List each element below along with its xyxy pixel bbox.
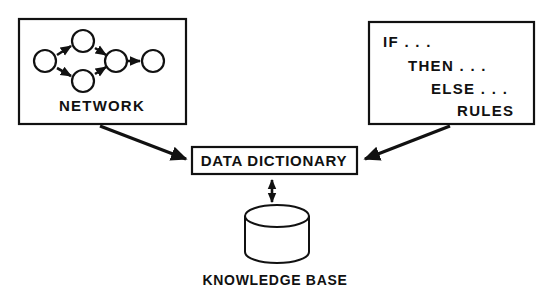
connector-network-to-data-dictionary <box>100 126 186 159</box>
rules-line-if: IF . . . <box>383 33 432 50</box>
connector-rules-to-data-dictionary <box>365 126 450 159</box>
network-label: NETWORK <box>59 97 145 114</box>
rules-line-rules: RULES <box>457 102 514 119</box>
knowledge-base-label: KNOWLEDGE BASE <box>202 272 347 288</box>
data-dictionary-box[interactable]: DATA DICTIONARY <box>192 147 357 174</box>
rules-line-then: THEN . . . <box>408 57 487 74</box>
data-dictionary-label: DATA DICTIONARY <box>201 152 347 169</box>
knowledge-base-cylinder[interactable]: KNOWLEDGE BASE <box>202 205 347 288</box>
network-node-5 <box>142 50 164 72</box>
network-node-2 <box>72 30 94 52</box>
network-node-1 <box>34 50 56 72</box>
rules-line-else: ELSE . . . <box>431 80 508 97</box>
diagram-canvas: NETWORK IF . . . THEN . . . ELSE . . . R… <box>0 0 546 302</box>
network-box[interactable]: NETWORK <box>19 19 186 124</box>
architecture-diagram: NETWORK IF . . . THEN . . . ELSE . . . R… <box>0 0 546 302</box>
cylinder-icon-top <box>245 205 309 227</box>
rules-box[interactable]: IF . . . THEN . . . ELSE . . . RULES <box>369 22 534 124</box>
network-node-3 <box>72 70 94 92</box>
network-node-4 <box>105 50 127 72</box>
